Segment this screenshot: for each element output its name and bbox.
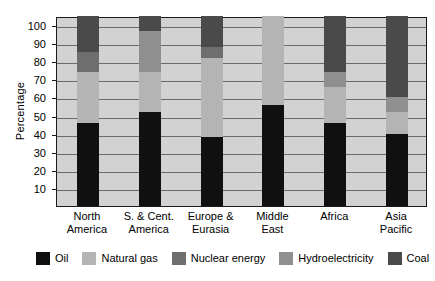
y-tick-label: 80 [34,57,46,68]
bar-column[interactable] [77,18,99,206]
x-axis-labels: NorthAmericaS. & Cent.AmericaEurope &Eur… [56,210,427,240]
stacked-bar[interactable] [139,16,161,206]
y-tick-label: 20 [34,165,46,176]
bar-segment-oil[interactable] [386,134,408,206]
y-tick-mark [52,98,56,99]
y-tick-mark [52,80,56,81]
bar-segment-nuclear-energy[interactable] [201,47,223,58]
legend-label: Natural gas [101,252,157,264]
legend-swatch [279,252,293,265]
legend-label: Hydroelectricity [298,252,373,264]
bar-segment-hydroelectricity[interactable] [386,97,408,111]
bar-segment-oil[interactable] [201,137,223,206]
x-tick-label-line: Eurasia [180,223,242,236]
y-tick-mark [52,44,56,45]
legend-item-hydroelectricity[interactable]: Hydroelectricity [279,252,373,265]
legend-label: Coal [407,252,430,264]
bar-segment-hydroelectricity[interactable] [324,72,346,86]
bar-segment-oil[interactable] [262,105,284,206]
x-tick-label: Europe &Eurasia [180,210,242,236]
legend-item-oil[interactable]: Oil [36,252,68,265]
legend-swatch [82,252,96,265]
x-tick-label: NorthAmerica [56,210,118,236]
chart-legend: OilNatural gasNuclear energyHydroelectri… [36,248,426,268]
bar-segment-nuclear-energy[interactable] [77,52,99,72]
legend-item-nuclear-energy[interactable]: Nuclear energy [172,252,266,265]
legend-swatch [172,252,186,265]
bar-column[interactable] [201,18,223,206]
x-tick-label-line: Africa [303,210,365,223]
y-tick-label: 50 [34,111,46,122]
legend-label: Nuclear energy [191,252,266,264]
stacked-bar[interactable] [262,16,284,206]
stacked-bar[interactable] [386,16,408,206]
bar-segment-coal[interactable] [386,16,408,97]
stacked-bar[interactable] [324,16,346,206]
legend-item-natural-gas[interactable]: Natural gas [82,252,157,265]
x-tick-label-line: Europe & [180,210,242,223]
legend-item-coal[interactable]: Coal [388,252,430,265]
y-tick-mark [52,171,56,172]
bar-segment-natural-gas[interactable] [201,58,223,138]
bar-segment-natural-gas[interactable] [386,112,408,134]
bar-segment-coal[interactable] [324,16,346,72]
stacked-bar[interactable] [77,16,99,206]
legend-label: Oil [55,252,68,264]
y-tick-label: 70 [34,75,46,86]
x-tick-label-line: East [242,223,304,236]
y-tick-mark [52,117,56,118]
bar-segment-natural-gas[interactable] [324,87,346,123]
bar-segment-oil[interactable] [324,123,346,206]
y-tick-mark [52,153,56,154]
bar-segment-oil[interactable] [139,112,161,206]
bar-column[interactable] [324,18,346,206]
x-tick-label-line: S. & Cent. [118,210,180,223]
bar-column[interactable] [386,18,408,206]
bar-column[interactable] [139,18,161,206]
y-tick-label: 10 [34,183,46,194]
x-tick-label: MiddleEast [242,210,304,236]
bar-segment-oil[interactable] [77,123,99,206]
y-tick-mark [52,135,56,136]
bar-segment-coal[interactable] [139,16,161,30]
y-tick-mark [52,189,56,190]
bar-column[interactable] [262,18,284,206]
bar-segment-hydroelectricity[interactable] [139,31,161,73]
bar-segment-coal[interactable] [77,16,99,52]
bar-segment-natural-gas[interactable] [262,16,284,105]
y-tick-label: 40 [34,129,46,140]
y-tick-label: 100 [28,21,46,32]
x-tick-label-line: Pacific [365,223,427,236]
stacked-bar[interactable] [201,16,223,206]
y-axis-tick-labels: 102030405060708090100 [0,17,52,207]
x-tick-label-line: Asia [365,210,427,223]
bar-segment-natural-gas[interactable] [139,72,161,112]
plot-area [56,17,427,207]
chart-root: Percentage 102030405060708090100 NorthAm… [0,0,435,281]
bar-group [57,18,426,206]
bar-segment-coal[interactable] [201,16,223,47]
y-tick-mark [52,26,56,27]
x-tick-label: Africa [303,210,365,223]
x-tick-label: S. & Cent.America [118,210,180,236]
x-tick-label-line: America [118,223,180,236]
y-tick-label: 90 [34,39,46,50]
x-tick-label-line: Middle [242,210,304,223]
legend-swatch [36,252,50,265]
y-tick-mark [52,62,56,63]
bar-segment-natural-gas[interactable] [77,72,99,123]
y-tick-label: 60 [34,93,46,104]
y-tick-label: 30 [34,147,46,158]
x-tick-label: AsiaPacific [365,210,427,236]
legend-swatch [388,252,402,265]
x-tick-label-line: North [56,210,118,223]
x-tick-label-line: America [56,223,118,236]
